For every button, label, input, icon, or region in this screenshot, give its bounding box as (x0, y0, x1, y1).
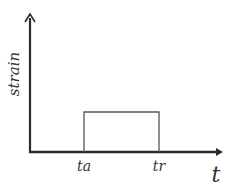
tick-label-tr: tr (153, 158, 167, 174)
x-axis-label: t (212, 162, 221, 187)
tick-label-ta: ta (77, 158, 91, 174)
strain-pulse (84, 112, 159, 152)
y-axis-label: strain (5, 52, 23, 96)
x-axis-arrowhead-icon (216, 148, 223, 156)
strain-time-diagram: strain ta tr t (0, 0, 230, 192)
